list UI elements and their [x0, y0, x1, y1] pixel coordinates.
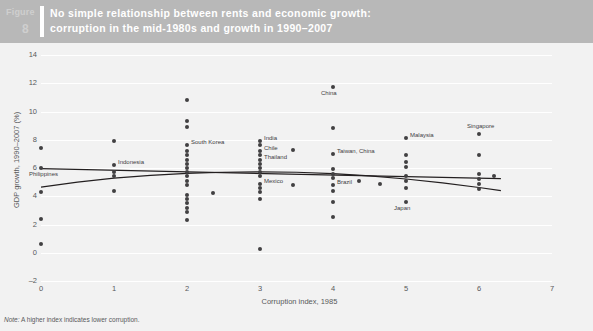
point-label: Chile: [264, 145, 278, 151]
x-axis-tick-label: 7: [537, 284, 567, 293]
data-point: [185, 125, 189, 129]
x-axis-tick-label: 2: [172, 284, 202, 293]
data-point: [258, 247, 262, 251]
x-axis-line: [41, 281, 552, 282]
point-label: Brazil: [337, 179, 352, 185]
data-point: [185, 210, 189, 214]
data-point-brazil: [331, 183, 335, 187]
point-label: Thailand: [264, 154, 287, 160]
data-point: [291, 148, 295, 152]
figure-number: 8: [22, 22, 29, 36]
data-point: [258, 190, 262, 194]
scatter-plot-canvas: –20246810121401234567PhilippinesIndonesi…: [41, 55, 552, 281]
data-point-japan: [404, 200, 408, 204]
data-point: [185, 206, 189, 210]
note-prefix: Note:: [4, 316, 20, 323]
point-label: Malaysia: [410, 132, 434, 138]
y-axis-tick-label: 2: [15, 220, 37, 229]
note-text: A higher index indicates lower corruptio…: [21, 316, 140, 323]
x-axis-tick-label: 5: [391, 284, 421, 293]
x-axis-label: Corruption index, 1985: [262, 297, 338, 306]
point-label: Philippines: [29, 171, 58, 177]
y-axis-tick-label: 4: [15, 191, 37, 200]
data-point: [331, 176, 335, 180]
x-axis-tick-label: 6: [464, 284, 494, 293]
data-point: [39, 190, 43, 194]
x-axis-tick-label: 4: [318, 284, 348, 293]
data-point-mexico: [258, 182, 262, 186]
data-point: [39, 217, 43, 221]
x-axis-tick-label: 3: [245, 284, 275, 293]
point-label: South Korea: [191, 139, 224, 145]
point-label: China: [321, 90, 337, 96]
header-divider-rule: [40, 6, 44, 37]
data-point: [404, 179, 408, 183]
data-point-taiwan-china: [331, 152, 335, 156]
data-point: [112, 189, 116, 193]
data-point: [477, 172, 481, 176]
figure-note: Note: A higher index indicates lower cor…: [4, 316, 140, 323]
figure-page: Figure 8 No simple relationship between …: [0, 0, 593, 331]
data-point: [357, 179, 361, 183]
chart-area: GDP growth, 1990–2007 (%) –2024681012140…: [0, 43, 593, 331]
point-label: India: [264, 135, 277, 141]
figure-header-band: Figure 8 No simple relationship between …: [0, 0, 593, 43]
data-point: [185, 183, 189, 187]
figure-word-label: Figure: [6, 7, 35, 17]
point-label: Mexico: [264, 178, 283, 184]
data-point: [331, 189, 335, 193]
figure-title: No simple relationship between rents and…: [50, 6, 570, 36]
data-point: [404, 186, 408, 190]
point-label: Taiwan, China: [337, 148, 375, 154]
y-axis-tick-label: 12: [15, 78, 37, 87]
point-label: Japan: [394, 205, 410, 211]
y-axis-tick-label: 14: [15, 50, 37, 59]
data-point: [291, 183, 295, 187]
trend-lines-group: [41, 55, 552, 281]
point-label: Indonesia: [118, 159, 144, 165]
data-point-thailand: [258, 158, 262, 162]
figure-title-line-1: No simple relationship between rents and…: [50, 6, 570, 21]
data-point: [477, 182, 481, 186]
figure-title-line-2: corruption in the mid-1980s and growth i…: [50, 21, 570, 36]
point-label: Singapore: [467, 123, 494, 129]
x-axis-tick-label: 0: [26, 284, 56, 293]
data-point: [404, 165, 408, 169]
y-axis-tick-label: 8: [15, 135, 37, 144]
y-axis-tick-label: 0: [15, 248, 37, 257]
x-axis-tick-label: 1: [99, 284, 129, 293]
y-axis-tick-label: 10: [15, 107, 37, 116]
data-point: [185, 158, 189, 162]
data-point-philippines: [39, 166, 43, 170]
data-point: [331, 200, 335, 204]
